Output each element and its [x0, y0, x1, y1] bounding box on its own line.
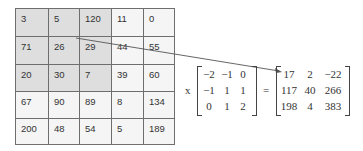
kernel-cell: 0 [200, 100, 218, 112]
result-cell: 266 [320, 84, 346, 96]
result-cell: −22 [320, 68, 346, 80]
kernel-cell: −1 [218, 68, 236, 80]
kernel-cell: 2 [236, 100, 250, 112]
result-matrix: 17 2 −22 117 40 266 198 4 383 [278, 68, 348, 116]
kernel-cell: 1 [236, 84, 250, 96]
result-cell: 4 [300, 100, 320, 112]
result-cell: 2 [300, 68, 320, 80]
times-symbol: x [185, 84, 191, 96]
equals-symbol: = [263, 84, 269, 96]
kernel-cell: 1 [218, 100, 236, 112]
result-cell: 198 [278, 100, 300, 112]
result-cell: 383 [320, 100, 346, 112]
kernel-cell: 0 [236, 68, 250, 80]
kernel-cell: −1 [200, 84, 218, 96]
kernel-cell: 1 [218, 84, 236, 96]
result-cell: 17 [278, 68, 300, 80]
kernel-cell: −2 [200, 68, 218, 80]
kernel-matrix: −2 −1 0 −1 1 1 0 1 2 [200, 68, 254, 116]
result-cell: 40 [300, 84, 320, 96]
result-cell: 117 [278, 84, 300, 96]
